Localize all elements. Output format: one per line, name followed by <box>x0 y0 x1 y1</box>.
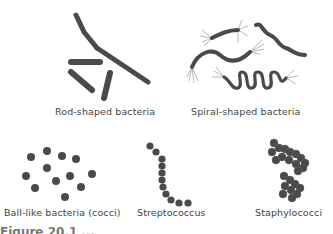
spiral-bacteria-label: Spiral-shaped bacteria <box>191 106 300 117</box>
bacteria-illustration <box>0 0 333 234</box>
staphylococci-drawing <box>268 139 309 202</box>
cocci-label: Ball-like bacteria (cocci) <box>4 207 121 218</box>
rod-bacteria-drawing <box>71 15 148 98</box>
figure-caption: Figure 20.1 ... <box>0 225 95 234</box>
streptococcus-drawing <box>146 142 191 206</box>
cocci-drawing <box>22 147 96 201</box>
rod-bacteria-label: Rod-shaped bacteria <box>55 106 155 117</box>
spiral-bacteria-drawing <box>187 20 305 88</box>
staphylococci-label: Staphylococci <box>255 207 322 218</box>
streptococcus-label: Streptococcus <box>137 207 206 218</box>
